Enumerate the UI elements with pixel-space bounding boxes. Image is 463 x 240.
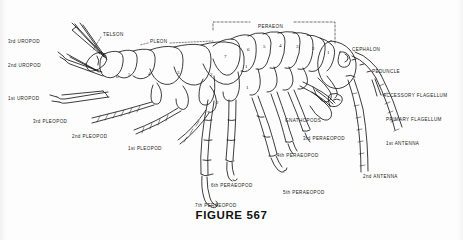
coxa-2: 2 xyxy=(216,100,219,105)
peraeon-segments xyxy=(213,32,335,76)
label-uropod-3: 3rd UROPOD xyxy=(8,40,40,45)
label-antenna-2: 2nd ANTENNA xyxy=(363,175,398,180)
peraeon-segment-6: 6 xyxy=(247,47,250,52)
peraeon-segment-3: 3 xyxy=(296,44,299,49)
eye xyxy=(338,52,351,67)
label-antenna-1: 1st ANTENNA xyxy=(386,142,419,147)
label-peraeopod-3: 3rd PERAEOPOD xyxy=(303,137,345,142)
label-peraeopod-6: 6th PERAEOPOD xyxy=(211,184,253,189)
pleon-segment-4: 4 xyxy=(148,71,151,76)
pleon-segment-6: 6 xyxy=(116,74,119,79)
pleon-segment-2: 2 xyxy=(210,72,213,77)
pleopods xyxy=(92,102,209,144)
label-gnathopods: GNATHOPODS xyxy=(285,119,321,124)
label-primary-flagellum: PRIMARY FLAGELLUM xyxy=(386,118,442,123)
cephalon xyxy=(318,41,356,89)
label-peraeopod-4: 4th PERAEOPOD xyxy=(277,154,319,159)
peraeon-segment-1: 1 xyxy=(327,50,330,55)
pleon-segment-5: 5 xyxy=(128,72,131,77)
label-telson: TELSON xyxy=(103,33,124,38)
label-pleopod-2: 2nd PLEOPOD xyxy=(72,135,107,140)
peraeopod-5 xyxy=(252,96,287,172)
figure-caption: FIGURE 567 xyxy=(0,209,463,221)
label-pleopod-3: 3rd PLEOPOD xyxy=(33,120,67,125)
uropod-2 xyxy=(58,52,103,76)
peraeon-segment-4: 4 xyxy=(279,43,282,48)
peraeopod-7 xyxy=(201,100,218,208)
uropod-3 xyxy=(72,23,107,59)
peraeopod-6 xyxy=(226,100,237,181)
figure-plate: TELSONPLEONPERAEON3rd UROPOD2nd UROPOD1s… xyxy=(0,0,463,240)
coxa-1: 1 xyxy=(246,85,249,90)
label-peraeon: PERAEON xyxy=(258,25,283,30)
label-cephalon: CEPHALON xyxy=(352,48,380,53)
label-uropod-2: 2nd UROPOD xyxy=(8,64,41,69)
label-pleon: PLEON xyxy=(150,40,167,45)
label-uropod-1: 1st UROPOD xyxy=(8,97,39,102)
uropod-1 xyxy=(50,91,109,103)
pleon-segment-1: 1 xyxy=(245,64,248,69)
label-pleopod-1: 1st PLEOPOD xyxy=(128,147,162,152)
label-peraeopod-5: 5th PERAEOPOD xyxy=(283,191,325,196)
label-peduncle: PEDUNCLE xyxy=(372,70,400,75)
peraeon-segment-2: 2 xyxy=(312,46,315,51)
gnathopods xyxy=(300,82,342,120)
antenna-2 xyxy=(346,75,368,172)
peraeon-segment-5: 5 xyxy=(263,44,266,49)
pleon-segments xyxy=(150,42,244,85)
pleon-segment-3: 3 xyxy=(177,70,180,75)
peraeon-segment-7: 7 xyxy=(224,54,227,59)
label-accessory-flagellum: ACCESSORY FLAGELLUM xyxy=(383,94,448,99)
